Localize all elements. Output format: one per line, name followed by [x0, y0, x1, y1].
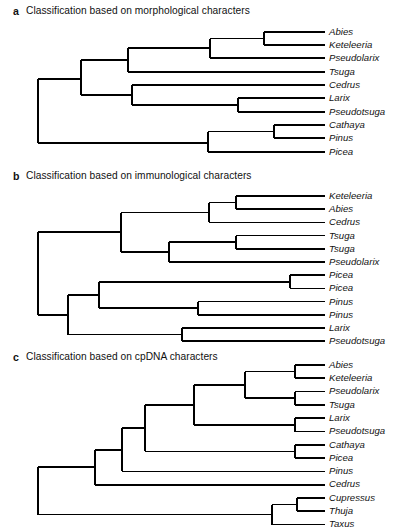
tip-label: Tsuga — [329, 231, 355, 241]
tip-label: Cupressus — [329, 493, 375, 503]
tip-label: Pinus — [329, 466, 353, 476]
tip-label: Pinus — [329, 310, 353, 320]
tip-label: Pseudotsuga — [329, 107, 385, 117]
tip-label: Pseudotsuga — [329, 336, 385, 346]
tip-label: Picea — [329, 147, 353, 157]
tip-label: Larix — [329, 93, 350, 103]
tip-label: Pseudotsuga — [329, 426, 385, 436]
panel-c: c Classification based on cpDNA characte… — [0, 347, 400, 532]
tip-label: Cedrus — [329, 217, 360, 227]
tip-label: Keteleeria — [329, 373, 372, 383]
tip-label: Larix — [329, 323, 350, 333]
tip-label: Keteleeria — [329, 191, 372, 201]
tip-label: Abies — [329, 204, 353, 214]
tip-label: Pinus — [329, 133, 353, 143]
tip-label: Abies — [329, 360, 353, 370]
panel-a: a Classification based on morphological … — [0, 0, 400, 165]
tip-label: Picea — [329, 453, 353, 463]
tip-label: Cedrus — [329, 479, 360, 489]
tip-label: Tsuga — [329, 67, 355, 77]
tip-label: Abies — [329, 27, 353, 37]
tip-label: Pseudolarix — [329, 386, 379, 396]
tip-label: Pseudolarix — [329, 53, 379, 63]
tip-label: Thuja — [329, 506, 353, 516]
tip-label: Tsuga — [329, 244, 355, 254]
tip-label: Tsuga — [329, 400, 355, 410]
tip-label: Taxus — [329, 519, 354, 529]
tip-label: Larix — [329, 413, 350, 423]
tip-label: Pseudolarix — [329, 257, 379, 267]
tip-label: Picea — [329, 283, 353, 293]
tip-label: Cathaya — [329, 440, 365, 450]
panel-b: b Classification based on immunological … — [0, 165, 400, 347]
tip-label: Cedrus — [329, 80, 360, 90]
tip-label: Pinus — [329, 297, 353, 307]
tip-label: Picea — [329, 270, 353, 280]
tip-label: Keteleeria — [329, 40, 372, 50]
tip-label: Cathaya — [329, 120, 365, 130]
figure-cladograms: a Classification based on morphological … — [0, 0, 400, 532]
